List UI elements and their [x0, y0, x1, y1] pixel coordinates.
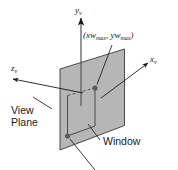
x-axis-label: xv: [149, 54, 157, 65]
coord-x-subscript: max: [96, 35, 106, 41]
diagram-canvas: yv xv zv (xwmax, ywmax) View Plane Windo…: [0, 0, 178, 170]
view-plane-diagram: yv xv zv (xwmax, ywmax) View Plane Windo…: [0, 0, 178, 170]
window-max-corner-marker: [92, 85, 97, 90]
coord-y-base: yw: [110, 30, 121, 40]
view-plane-leader-line: [33, 97, 52, 109]
coordinate-point-label: (xwmax, ywmax): [83, 30, 134, 41]
y-axis-label: yv: [74, 5, 82, 16]
axes-group: [13, 18, 148, 106]
window-label: Window: [103, 135, 141, 147]
y-axis-label-subscript: v: [79, 9, 82, 16]
window-min-corner-marker: [65, 133, 70, 138]
view-plane-label-line1: View: [11, 104, 34, 116]
window-corner-leader-line: [70, 139, 95, 170]
coord-x-base: xw: [85, 30, 96, 40]
view-plane-label-line2: Plane: [11, 116, 38, 128]
z-axis-label: zv: [10, 63, 18, 74]
coord-y-subscript: max: [121, 35, 131, 41]
x-axis-label-subscript: v: [154, 58, 157, 65]
coord-close-paren: ): [130, 30, 134, 40]
z-axis-label-subscript: v: [15, 67, 18, 74]
